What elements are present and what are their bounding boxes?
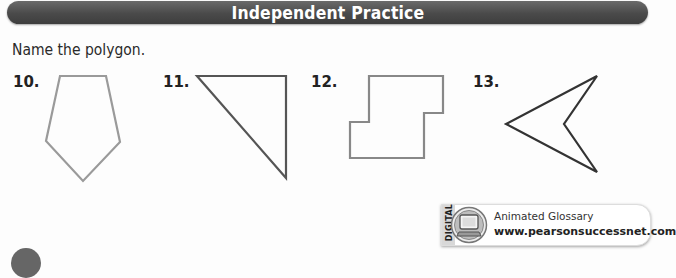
triangle-shape: [197, 76, 286, 178]
computer-icon: [450, 206, 488, 244]
quadrilateral-shape: [506, 76, 597, 172]
pentagon-shape: [46, 76, 120, 181]
glossary-label: Animated Glossary: [494, 210, 593, 222]
octagon-shape: [350, 76, 443, 158]
glossary-url-link[interactable]: www.pearsonsuccessnet.com: [494, 225, 676, 238]
page-number-circle: [11, 248, 41, 278]
animated-glossary-link[interactable]: DIGITAL Animated Glossary www.pearsonsuc…: [441, 204, 651, 246]
